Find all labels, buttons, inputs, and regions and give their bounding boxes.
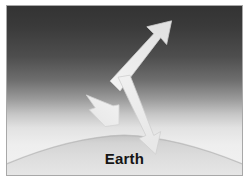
earth-label: Earth: [7, 150, 242, 168]
figure-root: Earth: [0, 0, 249, 181]
figure-frame: Earth: [6, 5, 243, 176]
